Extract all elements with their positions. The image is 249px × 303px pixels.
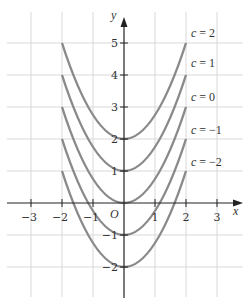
- svg-text:−2: −2: [52, 211, 68, 224]
- svg-text:3: 3: [111, 101, 118, 114]
- label-c-1: c = 1: [191, 56, 215, 70]
- origin-label: O: [110, 207, 119, 221]
- svg-text:−2: −2: [102, 261, 118, 274]
- x-axis-label: x: [232, 204, 239, 218]
- label-c-2: c = 2: [191, 26, 215, 40]
- label-c-neg1: c = −1: [191, 123, 222, 137]
- parabola-family-chart: −3 −2 −1 1 2 3 5 4 3 2 1 −1 −2 y x O c =…: [0, 0, 249, 303]
- label-c-0: c = 0: [191, 90, 215, 104]
- svg-text:4: 4: [111, 69, 118, 82]
- svg-text:2: 2: [183, 211, 190, 224]
- label-c-neg2: c = −2: [191, 155, 222, 169]
- svg-text:1: 1: [152, 211, 159, 224]
- y-tick-labels: 5 4 3 2 1 −1 −2: [102, 37, 118, 274]
- svg-text:5: 5: [111, 37, 118, 50]
- svg-text:−1: −1: [102, 229, 118, 242]
- svg-text:2: 2: [111, 133, 118, 146]
- svg-text:1: 1: [111, 165, 118, 178]
- y-axis-label: y: [110, 8, 117, 22]
- svg-text:3: 3: [214, 211, 221, 224]
- svg-text:−1: −1: [83, 211, 99, 224]
- svg-text:−3: −3: [21, 211, 37, 224]
- x-tick-labels: −3 −2 −1 1 2 3: [21, 211, 221, 224]
- y-axis-arrow-icon: [121, 17, 128, 27]
